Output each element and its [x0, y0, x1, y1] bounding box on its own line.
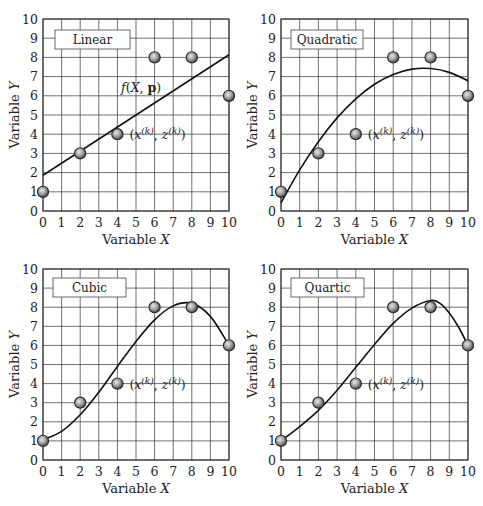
y-tick-label: 8 — [268, 300, 276, 315]
chart-panel-cubic: 012345678910012345678910Variable XVariab… — [7, 262, 237, 497]
y-axis-label: Variable Y — [245, 330, 260, 399]
x-tick-label: 4 — [113, 464, 121, 479]
chart-panel-linear: 012345678910012345678910Variable XVariab… — [7, 12, 237, 248]
x-axis-label: Variable X — [101, 481, 170, 496]
y-tick-label: 9 — [30, 281, 38, 296]
x-tick-label: 6 — [151, 215, 159, 230]
data-point-marker — [388, 302, 399, 313]
y-tick-label: 3 — [30, 395, 38, 410]
data-point-marker — [425, 302, 436, 313]
function-annotation: f(X, p) — [120, 80, 161, 95]
y-tick-label: 0 — [268, 453, 276, 468]
data-point-marker — [462, 90, 473, 101]
chart-title: Linear — [73, 33, 113, 47]
x-tick-label: 3 — [95, 464, 103, 479]
y-tick-label: 4 — [268, 376, 276, 391]
x-tick-label: 1 — [58, 215, 66, 230]
x-tick-label: 0 — [277, 215, 285, 230]
y-tick-label: 6 — [268, 338, 276, 353]
x-tick-label: 10 — [460, 464, 476, 479]
data-point-marker — [388, 52, 399, 63]
x-tick-label: 2 — [314, 215, 322, 230]
data-point-marker — [112, 129, 123, 140]
x-tick-label: 7 — [408, 464, 416, 479]
y-tick-label: 7 — [30, 319, 38, 334]
x-tick-label: 6 — [389, 464, 397, 479]
y-tick-label: 4 — [30, 376, 38, 391]
y-tick-label: 5 — [30, 357, 38, 372]
y-tick-label: 3 — [268, 395, 276, 410]
y-axis-label: Variable Y — [7, 80, 22, 149]
x-tick-label: 3 — [333, 215, 341, 230]
x-axis-label: Variable X — [340, 481, 409, 496]
y-tick-label: 0 — [30, 453, 38, 468]
chart-panel-quartic: 012345678910012345678910Variable XVariab… — [245, 262, 476, 497]
chart-title: Cubic — [72, 281, 107, 295]
y-tick-label: 4 — [268, 127, 276, 142]
x-tick-label: 8 — [427, 215, 435, 230]
data-point-marker — [75, 148, 86, 159]
y-tick-label: 9 — [30, 31, 38, 46]
x-tick-label: 3 — [95, 215, 103, 230]
y-tick-label: 10 — [260, 12, 276, 27]
data-point-marker — [275, 186, 286, 197]
y-tick-label: 6 — [268, 88, 276, 103]
y-tick-label: 2 — [30, 165, 38, 180]
y-tick-label: 6 — [30, 338, 38, 353]
x-tick-label: 1 — [296, 215, 304, 230]
y-tick-label: 8 — [30, 50, 38, 65]
x-tick-label: 9 — [445, 464, 453, 479]
data-point-marker — [275, 435, 286, 446]
x-tick-label: 9 — [445, 215, 453, 230]
x-tick-label: 2 — [76, 215, 84, 230]
x-tick-label: 4 — [113, 215, 121, 230]
y-tick-label: 7 — [30, 69, 38, 84]
y-tick-label: 5 — [30, 108, 38, 123]
chart-title: Quartic — [305, 281, 351, 295]
y-tick-label: 0 — [268, 204, 276, 219]
y-tick-label: 8 — [268, 50, 276, 65]
x-tick-label: 4 — [352, 464, 360, 479]
y-tick-label: 4 — [30, 127, 38, 142]
data-point-marker — [462, 340, 473, 351]
y-tick-label: 3 — [268, 146, 276, 161]
y-tick-label: 9 — [268, 281, 276, 296]
x-tick-label: 8 — [427, 464, 435, 479]
data-point-marker — [313, 148, 324, 159]
data-point-marker — [350, 129, 361, 140]
x-tick-label: 0 — [277, 464, 285, 479]
x-tick-label: 5 — [132, 215, 140, 230]
x-tick-label: 4 — [352, 215, 360, 230]
y-tick-label: 7 — [268, 319, 276, 334]
x-tick-label: 7 — [408, 215, 416, 230]
x-tick-label: 6 — [389, 215, 397, 230]
data-point-marker — [425, 52, 436, 63]
x-tick-label: 10 — [460, 215, 476, 230]
y-axis-label: Variable Y — [245, 80, 260, 149]
y-tick-label: 0 — [30, 204, 38, 219]
y-tick-label: 1 — [268, 433, 276, 448]
x-tick-label: 3 — [333, 464, 341, 479]
data-point-annotation: (x(k), z(k)) — [368, 376, 424, 392]
x-tick-label: 8 — [188, 464, 196, 479]
data-point-marker — [149, 302, 160, 313]
x-tick-label: 7 — [169, 215, 177, 230]
x-axis-label: Variable X — [101, 232, 170, 247]
data-point-marker — [186, 52, 197, 63]
data-point-marker — [149, 52, 160, 63]
x-tick-label: 7 — [169, 464, 177, 479]
y-tick-label: 10 — [260, 262, 276, 277]
y-tick-label: 10 — [22, 262, 38, 277]
chart-panel-quadratic: 012345678910012345678910Variable XVariab… — [245, 12, 476, 248]
data-point-marker — [223, 340, 234, 351]
grid-lines — [43, 269, 229, 460]
y-axis-label: Variable Y — [7, 330, 22, 399]
x-tick-label: 5 — [371, 464, 379, 479]
data-point-marker — [112, 378, 123, 389]
y-tick-label: 6 — [30, 88, 38, 103]
y-tick-label: 1 — [268, 184, 276, 199]
data-point-marker — [313, 397, 324, 408]
x-tick-label: 2 — [76, 464, 84, 479]
x-tick-label: 10 — [221, 464, 237, 479]
y-tick-label: 2 — [268, 414, 276, 429]
